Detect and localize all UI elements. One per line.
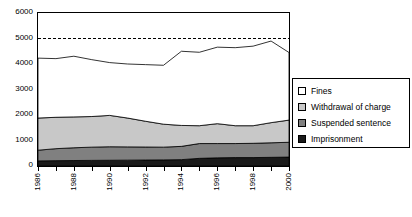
legend-swatch-icon — [298, 119, 306, 127]
x-axis-label: 1988 — [70, 173, 78, 191]
y-axis-label: 5000 — [0, 34, 33, 42]
x-axis-tick — [92, 167, 93, 171]
x-axis-tick — [217, 167, 218, 171]
legend-item-fines[interactable]: Fines — [298, 83, 405, 99]
x-axis-label: 1986 — [34, 173, 42, 191]
y-axis-label: 4000 — [0, 59, 33, 67]
x-axis-label: 1998 — [249, 173, 257, 191]
chart-legend: FinesWithdrawal of chargeSuspended sente… — [292, 78, 410, 148]
legend-swatch-icon — [298, 135, 306, 143]
x-axis-tick — [74, 167, 75, 171]
x-axis-tick — [110, 167, 111, 171]
x-axis-tick — [56, 167, 57, 171]
x-axis-tick — [38, 167, 39, 171]
y-axis-label: 1000 — [0, 136, 33, 144]
legend-item-imprisonment[interactable]: Imprisonment — [298, 131, 405, 147]
y-axis-label: 0 — [0, 161, 33, 169]
x-axis: 19861988199019921994199619982000 — [37, 167, 290, 217]
x-axis-label: 2000 — [285, 173, 293, 191]
chart-root: 0100020003000400050006000 19861988199019… — [0, 0, 412, 217]
x-axis-tick — [199, 167, 200, 171]
x-axis-tick — [146, 167, 147, 171]
plot-area — [37, 12, 290, 167]
x-axis-label: 1992 — [142, 173, 150, 191]
legend-label: Withdrawal of charge — [311, 103, 391, 112]
stacked-area-svg — [38, 13, 289, 166]
legend-swatch-icon — [298, 103, 306, 111]
x-axis-tick — [128, 167, 129, 171]
x-axis-tick — [271, 167, 272, 171]
x-axis-tick — [289, 167, 290, 171]
y-axis-label: 3000 — [0, 85, 33, 93]
legend-item-withdrawal-of-charge[interactable]: Withdrawal of charge — [298, 99, 405, 115]
y-axis-label: 2000 — [0, 110, 33, 118]
y-axis-label: 6000 — [0, 8, 33, 16]
x-axis-tick — [235, 167, 236, 171]
legend-label: Fines — [311, 87, 332, 96]
x-axis-label: 1994 — [177, 173, 185, 191]
y-axis: 0100020003000400050006000 — [0, 0, 37, 217]
x-axis-label: 1996 — [213, 173, 221, 191]
x-axis-tick — [253, 167, 254, 171]
x-axis-label: 1990 — [106, 173, 114, 191]
legend-swatch-icon — [298, 87, 306, 95]
legend-item-suspended-sentence[interactable]: Suspended sentence — [298, 115, 405, 131]
x-axis-tick — [181, 167, 182, 171]
legend-label: Suspended sentence — [311, 119, 391, 128]
legend-label: Imprisonment — [311, 135, 363, 144]
area-series-fines — [38, 41, 289, 126]
x-axis-tick — [164, 167, 165, 171]
